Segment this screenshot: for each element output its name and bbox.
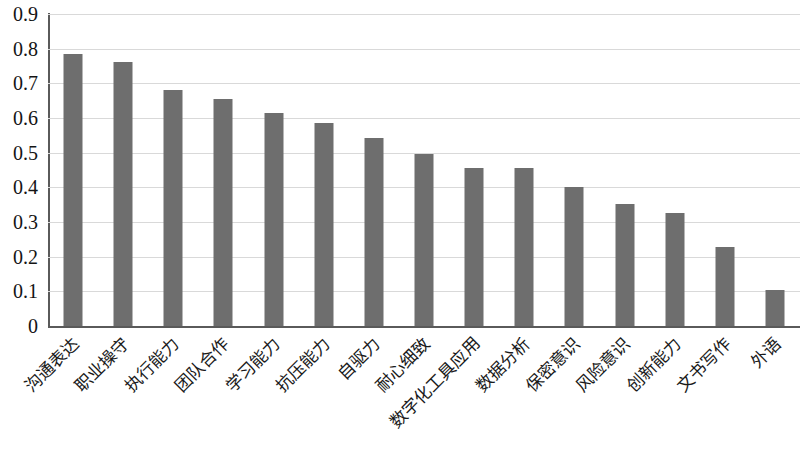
bar[interactable]	[414, 154, 433, 326]
y-axis-tick-label: 0.3	[13, 212, 38, 232]
bar-slot	[299, 14, 349, 326]
bar[interactable]	[114, 62, 133, 327]
bar-slot	[750, 14, 800, 326]
bar[interactable]	[565, 187, 584, 326]
y-axis-tick-label: 0.2	[13, 247, 38, 267]
x-axis: 沟通表达职业操守执行能力团队合作学习能力抗压能力自驱力耐心细致数字化工具应用数据…	[48, 330, 800, 451]
bar-slot	[249, 14, 299, 326]
bar[interactable]	[264, 113, 283, 326]
x-axis-tick-label: 数据分析	[472, 334, 534, 396]
y-axis-tick-label: 0.7	[13, 73, 38, 93]
bar-slot	[549, 14, 599, 326]
bar[interactable]	[364, 138, 383, 326]
bar[interactable]	[314, 123, 333, 326]
x-axis-tick-label: 数字化工具应用	[386, 334, 484, 432]
bar-slot	[599, 14, 649, 326]
bar-slot	[198, 14, 248, 326]
x-axis-tick-label: 抗压能力	[272, 334, 334, 396]
x-axis-tick-label: 风险意识	[572, 334, 634, 396]
x-axis-tick-label: 外语	[747, 334, 784, 371]
x-axis-tick-label: 创新能力	[623, 334, 685, 396]
bars-layer	[48, 14, 800, 326]
x-axis-tick-label: 文书写作	[673, 334, 735, 396]
bar-slot	[349, 14, 399, 326]
x-axis-tick-label: 团队合作	[171, 334, 233, 396]
bar[interactable]	[64, 54, 83, 326]
y-axis-tick-label: 0.8	[13, 39, 38, 59]
x-axis-tick-label: 学习能力	[222, 334, 284, 396]
bar-slot	[399, 14, 449, 326]
plot-area	[48, 14, 800, 326]
bar-slot	[499, 14, 549, 326]
x-axis-tick-label: 自驱力	[334, 334, 383, 383]
bar-chart: 0.90.80.70.60.50.40.30.20.10 沟通表达职业操守执行能…	[0, 0, 802, 451]
bar-slot	[148, 14, 198, 326]
bar[interactable]	[214, 99, 233, 326]
y-axis-tick-label: 0	[28, 316, 38, 336]
bar[interactable]	[665, 213, 684, 326]
x-axis-tick-label: 执行能力	[121, 334, 183, 396]
x-axis-tick-label: 保密意识	[522, 334, 584, 396]
bar-slot	[650, 14, 700, 326]
y-axis-tick-label: 0.6	[13, 108, 38, 128]
bar[interactable]	[715, 247, 734, 326]
bar[interactable]	[765, 290, 784, 326]
bar[interactable]	[615, 204, 634, 326]
x-axis-tick-label: 职业操守	[71, 334, 133, 396]
x-axis-line	[48, 326, 800, 328]
bar[interactable]	[164, 90, 183, 326]
bar[interactable]	[465, 168, 484, 326]
y-axis-tick-label: 0.4	[13, 177, 38, 197]
y-axis-tick-label: 0.5	[13, 143, 38, 163]
bar[interactable]	[515, 168, 534, 326]
y-axis-tick-label: 0.9	[13, 4, 38, 24]
bar-slot	[48, 14, 98, 326]
bar-slot	[98, 14, 148, 326]
y-axis-tick-label: 0.1	[13, 281, 38, 301]
bar-slot	[449, 14, 499, 326]
bar-slot	[700, 14, 750, 326]
